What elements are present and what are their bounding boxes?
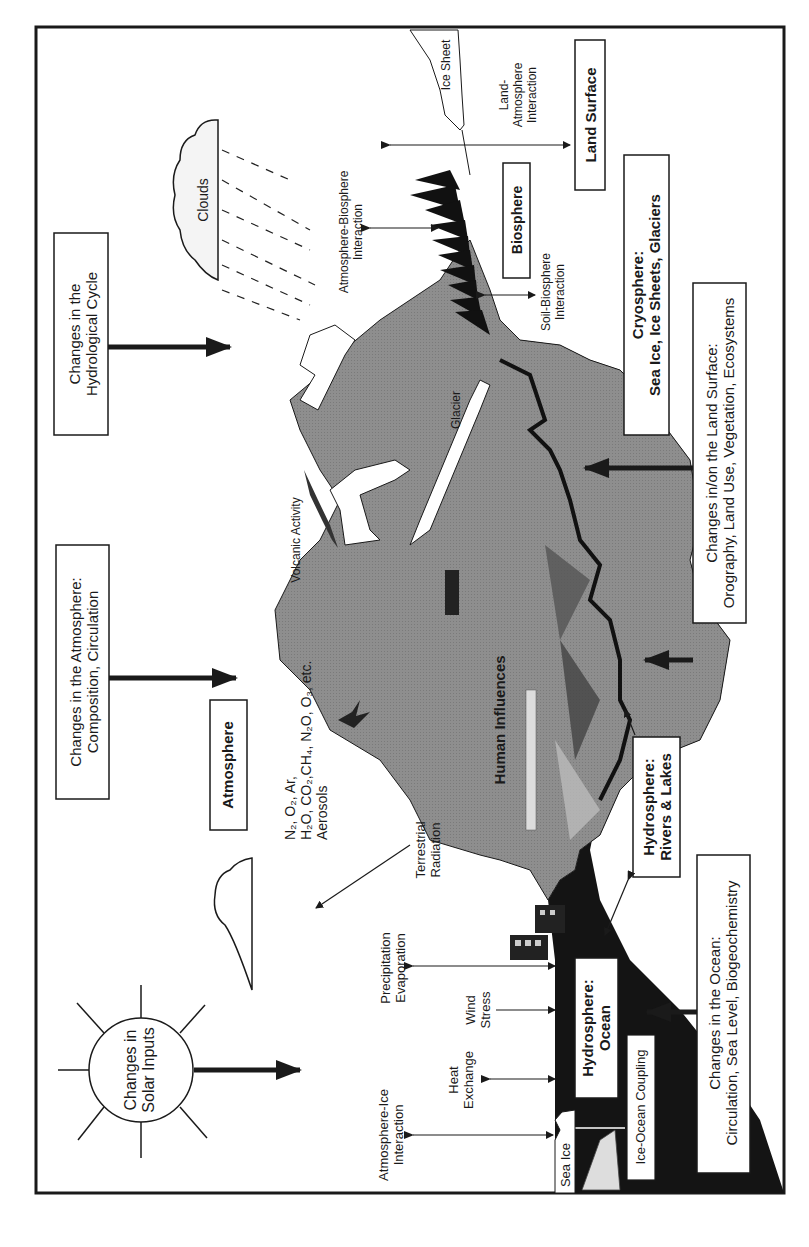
land-change-line2: Orography, Land Use, Vegetation, Ecosyst… — [720, 298, 737, 609]
wind-line2: Stress — [478, 991, 493, 1028]
ice-sheet-shape — [410, 30, 464, 130]
atm-bio-line2: Interaction — [351, 204, 365, 260]
atm-ice-line1: Atmosphere-Ice — [376, 1089, 391, 1181]
svg-text:Changes in/on the Land Surface: Changes in/on the Land Surface:Orography… — [703, 298, 737, 609]
heat-line1: Heat — [446, 1066, 461, 1094]
svg-text:Atmosphere-BiosphereInteractio: Atmosphere-BiosphereInteraction — [337, 170, 365, 293]
sea-ice-label: Sea Ice — [558, 1143, 573, 1187]
atmosphere-label: Atmosphere — [219, 721, 236, 809]
rivers-ocean-arrow — [605, 880, 628, 935]
heat-line2: Exchange — [461, 1051, 476, 1109]
land-atm-line1: Land- — [497, 80, 511, 111]
glacier-label: Glacier — [449, 391, 463, 429]
cloud-icon-small — [214, 858, 252, 990]
svg-text:Changes in theHydrological Cyc: Changes in theHydrological Cycle — [66, 272, 100, 396]
solar-label-2: Solar Inputs — [140, 1027, 157, 1112]
atm-ice-line2: Interaction — [391, 1105, 406, 1166]
svg-text:Changes in the Atmosphere:Comp: Changes in the Atmosphere:Composition, C… — [67, 577, 101, 766]
climate-system-diagram: Changes inSolar Inputs Changes in theHyd… — [0, 0, 809, 1247]
land-surface-line — [462, 130, 470, 175]
svg-text:Land-AtmosphereInteraction: Land-AtmosphereInteraction — [497, 62, 539, 127]
svg-text:Soil-BiosphereInteraction: Soil-BiosphereInteraction — [539, 253, 567, 331]
precip-line1: Precipitation — [378, 932, 393, 1004]
hydro-cycle-line2: Hydrological Cycle — [83, 272, 100, 396]
svg-text:Atmosphere-IceInteraction: Atmosphere-IceInteraction — [376, 1089, 406, 1181]
ice-sheet-label: Ice Sheet — [439, 39, 453, 90]
terrestrial-line2: Radiation — [428, 823, 443, 878]
cryosphere-line1: Cryosphere: — [629, 251, 646, 339]
clouds-label: Clouds — [195, 178, 211, 222]
svg-text:PrecipitationEvaporation: PrecipitationEvaporation — [378, 932, 408, 1004]
svg-text:WindStress: WindStress — [463, 991, 493, 1028]
land-surface-label: Land Surface — [582, 67, 599, 162]
human-influences-label: Human Influences — [491, 655, 508, 784]
ice-ocean-label: Ice-Ocean Coupling — [633, 1050, 648, 1165]
atmos-change-line2: Composition, Circulation — [84, 591, 101, 754]
factory-icon — [445, 570, 459, 615]
atm-bio-line1: Atmosphere-Biosphere — [337, 170, 351, 293]
gases-line2: H₂O, CO₂,CH₄, N₂O, O₃, etc. — [298, 661, 314, 840]
svg-text:TerrestrialRadiation: TerrestrialRadiation — [413, 821, 443, 878]
volcanic-label: Volcanic Activity — [289, 497, 303, 582]
atmos-change-line1: Changes in the Atmosphere: — [67, 577, 84, 766]
biosphere-label: Biosphere — [509, 186, 525, 255]
cryosphere-line2: Sea Ice, Ice Sheets, Glaciers — [646, 194, 663, 396]
hydro-cycle-line1: Changes in the — [66, 284, 83, 385]
solar-label-1: Changes in — [122, 1030, 139, 1111]
ocean-change-line2: Circulation, Sea Level, Biogeochemistry — [723, 880, 740, 1146]
terrestrial-line1: Terrestrial — [413, 821, 428, 878]
precip-line2: Evaporation — [393, 933, 408, 1002]
land-atm-line2: Atmosphere — [511, 62, 525, 127]
soil-bio-line1: Soil-Biosphere — [539, 253, 553, 331]
wind-line1: Wind — [463, 995, 478, 1025]
soil-bio-line2: Interaction — [553, 264, 567, 320]
terrestrial-arrow — [316, 845, 410, 908]
svg-text:HeatExchange: HeatExchange — [446, 1051, 476, 1109]
gases-line3: Aerosols — [314, 786, 330, 840]
rain-lines — [222, 150, 315, 320]
svg-text:Changes inSolar Inputs: Changes inSolar Inputs — [122, 1027, 157, 1112]
ocean-line1: Hydrosphere: — [579, 979, 596, 1077]
ocean-change-line1: Changes in the Ocean: — [706, 936, 723, 1089]
rivers-line1: Hydrosphere: — [640, 758, 657, 856]
road-icon — [526, 690, 536, 830]
gases-line1: N₂, O₂, Ar, — [282, 776, 298, 840]
ocean-line2: Ocean — [596, 1005, 613, 1051]
land-atm-line3: Interaction — [525, 67, 539, 123]
land-change-line1: Changes in/on the Land Surface: — [703, 343, 720, 562]
svg-text:Hydrosphere:Rivers & Lakes: Hydrosphere:Rivers & Lakes — [640, 753, 674, 861]
rivers-line2: Rivers & Lakes — [657, 753, 674, 861]
